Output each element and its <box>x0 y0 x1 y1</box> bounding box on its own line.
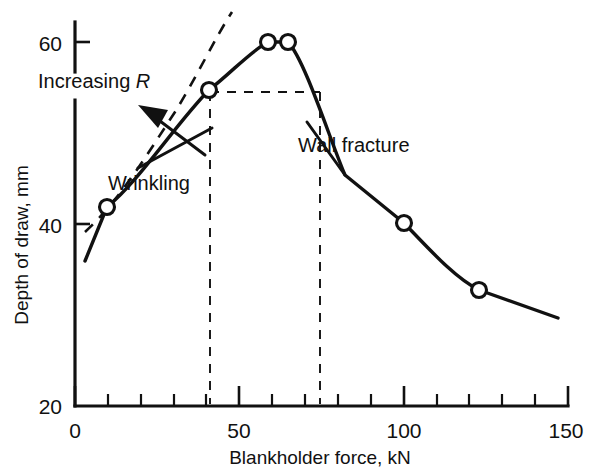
x-tick-label-100: 100 <box>386 419 421 442</box>
y-axis-title: Depth of draw, mm <box>11 165 32 324</box>
wall-fracture-label: Wall fracture <box>298 134 410 156</box>
depth-of-draw-chart: 60 40 20 0 50 100 150 Blankholder force,… <box>0 0 598 469</box>
x-axis-title: Blankholder force, kN <box>229 447 411 468</box>
increasing-r-symbol: R <box>136 70 150 92</box>
data-point-60-60 <box>261 35 276 50</box>
data-point-67-60 <box>281 35 296 50</box>
x-tick-label-0: 0 <box>69 419 81 442</box>
y-tick-label-40: 40 <box>39 214 62 237</box>
y-tick-label-20: 20 <box>39 395 62 418</box>
data-point-42-54.7 <box>202 83 217 98</box>
chart-container: 60 40 20 0 50 100 150 Blankholder force,… <box>0 0 598 469</box>
annotation-increasing-r <box>138 105 205 155</box>
y-tick-label-60: 60 <box>39 32 62 55</box>
x-tick-label-50: 50 <box>227 419 250 442</box>
increasing-r-label: Increasing R <box>38 70 150 92</box>
x-tick-label-150: 150 <box>548 419 583 442</box>
wrinkling-label: Wrinkling <box>108 172 190 194</box>
data-point-124-32.5 <box>472 283 487 298</box>
data-point-10-42.5 <box>100 200 115 215</box>
data-point-markers <box>100 35 487 298</box>
data-point-100-40.5 <box>397 216 412 231</box>
x-axis <box>75 386 568 406</box>
increasing-r-text: Increasing <box>38 70 136 92</box>
